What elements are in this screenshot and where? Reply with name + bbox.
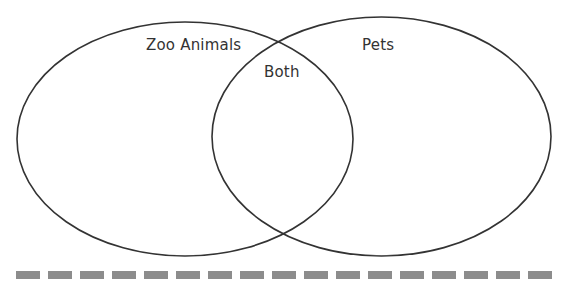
venn-diagram (0, 0, 563, 281)
dash (432, 271, 456, 279)
dash (272, 271, 296, 279)
both-label: Both (264, 63, 300, 81)
dash (112, 271, 136, 279)
dash (48, 271, 72, 279)
dash (240, 271, 264, 279)
zoo-animals-circle (17, 22, 353, 256)
dash (528, 271, 552, 279)
dash (176, 271, 200, 279)
dash (208, 271, 232, 279)
pets-label: Pets (362, 36, 394, 54)
dash (464, 271, 488, 279)
dash (144, 271, 168, 279)
dash (80, 271, 104, 279)
dash (304, 271, 328, 279)
dash (496, 271, 520, 279)
dash (16, 271, 40, 279)
zoo-animals-label: Zoo Animals (146, 36, 241, 54)
dash (400, 271, 424, 279)
dash (368, 271, 392, 279)
dashed-divider (16, 271, 552, 279)
dash (336, 271, 360, 279)
